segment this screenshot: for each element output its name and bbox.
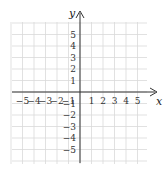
x-tick-label: 1 xyxy=(89,96,95,106)
coordinate-plane: x y −5−4−3−2−112345 54321−1−2−3−4−5 xyxy=(0,0,168,176)
x-tick-label: 4 xyxy=(123,96,129,106)
grid-lines xyxy=(11,22,147,164)
x-tick-label: 3 xyxy=(112,96,118,106)
y-tick-label: −5 xyxy=(63,145,77,155)
x-tick-label: 5 xyxy=(135,96,141,106)
y-tick-label: −4 xyxy=(63,133,77,143)
y-tick-label: 5 xyxy=(70,30,76,40)
x-tick-label: 2 xyxy=(100,96,106,106)
y-tick-label: 2 xyxy=(70,64,76,74)
x-tick-labels: −5−4−3−2−112345 xyxy=(16,96,141,106)
y-axis-label: y xyxy=(68,7,76,20)
y-tick-label: 1 xyxy=(70,76,76,86)
x-axis-label: x xyxy=(156,95,163,108)
y-tick-label: −2 xyxy=(63,110,76,120)
y-tick-label: −1 xyxy=(63,99,76,109)
y-tick-label: 4 xyxy=(70,41,76,51)
y-tick-label: 3 xyxy=(70,53,76,63)
y-tick-label: −3 xyxy=(63,122,77,132)
